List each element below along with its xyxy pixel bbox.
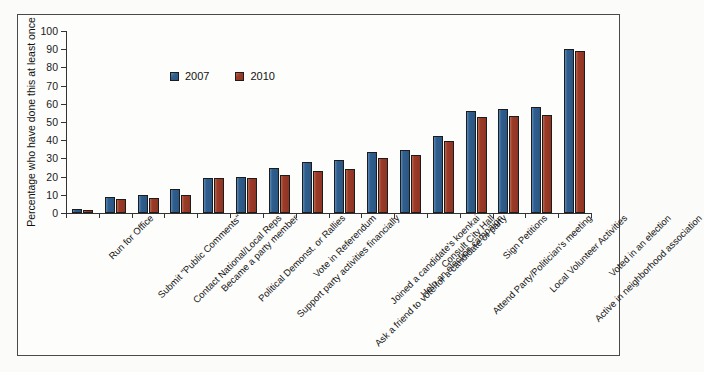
y-tick-mark: [61, 86, 66, 87]
bar-group: [302, 31, 323, 213]
legend-swatch-2010: [235, 72, 244, 81]
y-tick-mark: [61, 158, 66, 159]
y-tick-label: 40: [46, 135, 58, 146]
bar-2007: [564, 49, 574, 213]
legend-label: 2010: [250, 70, 274, 82]
bar-2010: [509, 116, 519, 213]
bar-2010: [378, 158, 388, 213]
bar-group: [564, 31, 585, 213]
bar-2007: [367, 152, 377, 213]
bar-group: [334, 31, 355, 213]
x-axis-label: Run for Office: [108, 213, 156, 261]
bar-group: [105, 31, 126, 213]
y-tick-mark: [61, 195, 66, 196]
bar-group: [367, 31, 388, 213]
y-tick-mark: [61, 67, 66, 68]
bar-group: [400, 31, 421, 213]
bar-2007: [498, 109, 508, 213]
x-axis-labels: Run for OfficeSubmit "Public Comments"Co…: [66, 213, 591, 353]
bar-2010: [214, 178, 224, 213]
bar-2007: [105, 197, 115, 213]
y-axis-title-label: Percentage who have done this at least o…: [25, 17, 37, 227]
bar-group: [138, 31, 159, 213]
bar-2010: [411, 155, 421, 213]
y-tick-label: 30: [46, 153, 58, 164]
y-tick-mark: [61, 140, 66, 141]
x-axis-label: Support party activities financially: [296, 213, 402, 319]
bar-group: [466, 31, 487, 213]
y-tick-label: 70: [46, 80, 58, 91]
bar-2010: [181, 195, 191, 213]
bar-2007: [400, 150, 410, 213]
plot-area: 0102030405060708090100: [66, 31, 591, 213]
y-tick-label: 80: [46, 62, 58, 73]
legend-item-2007[interactable]: 2007: [170, 70, 209, 82]
bar-2007: [170, 189, 180, 213]
bar-2010: [149, 198, 159, 213]
bar-2007: [269, 168, 279, 214]
bar-group: [433, 31, 454, 213]
bar-group: [269, 31, 290, 213]
y-tick-mark: [61, 177, 66, 178]
y-tick-label: 20: [46, 171, 58, 182]
y-tick-label: 100: [40, 26, 58, 37]
y-axis-title: Percentage who have done this at least o…: [24, 31, 38, 213]
bar-group: [203, 31, 224, 213]
bar-2007: [138, 195, 148, 213]
y-axis-line: [66, 31, 67, 213]
bar-group: [72, 31, 93, 213]
bar-2007: [466, 111, 476, 213]
bar-2007: [334, 160, 344, 213]
bar-2007: [302, 162, 312, 213]
bar-2010: [116, 199, 126, 213]
y-tick-mark: [61, 104, 66, 105]
bar-2010: [542, 115, 552, 213]
bar-group: [498, 31, 519, 213]
y-tick-label: 10: [46, 190, 58, 201]
bar-group: [531, 31, 552, 213]
bar-2010: [345, 169, 355, 213]
y-tick-mark: [61, 49, 66, 50]
bar-2010: [247, 178, 257, 213]
bar-2007: [236, 177, 246, 213]
bar-2010: [444, 141, 454, 213]
y-tick-mark: [61, 122, 66, 123]
y-tick-mark: [61, 31, 66, 32]
y-tick-label: 60: [46, 99, 58, 110]
bar-group: [236, 31, 257, 213]
y-tick-label: 50: [46, 117, 58, 128]
bar-2010: [575, 51, 585, 213]
y-tick-label: 0: [52, 208, 58, 219]
bar-2010: [280, 175, 290, 213]
bar-2010: [477, 117, 487, 213]
chart-figure: Percentage who have done this at least o…: [17, 14, 620, 356]
legend-label: 2007: [185, 70, 209, 82]
legend-swatch-2007: [170, 72, 179, 81]
bar-2010: [313, 171, 323, 213]
bar-2007: [433, 136, 443, 213]
y-tick-label: 90: [46, 44, 58, 55]
bar-group: [170, 31, 191, 213]
legend-item-2010[interactable]: 2010: [235, 70, 274, 82]
bar-2007: [531, 107, 541, 213]
bar-2007: [203, 178, 213, 213]
chart-legend: 20072010: [170, 70, 275, 82]
